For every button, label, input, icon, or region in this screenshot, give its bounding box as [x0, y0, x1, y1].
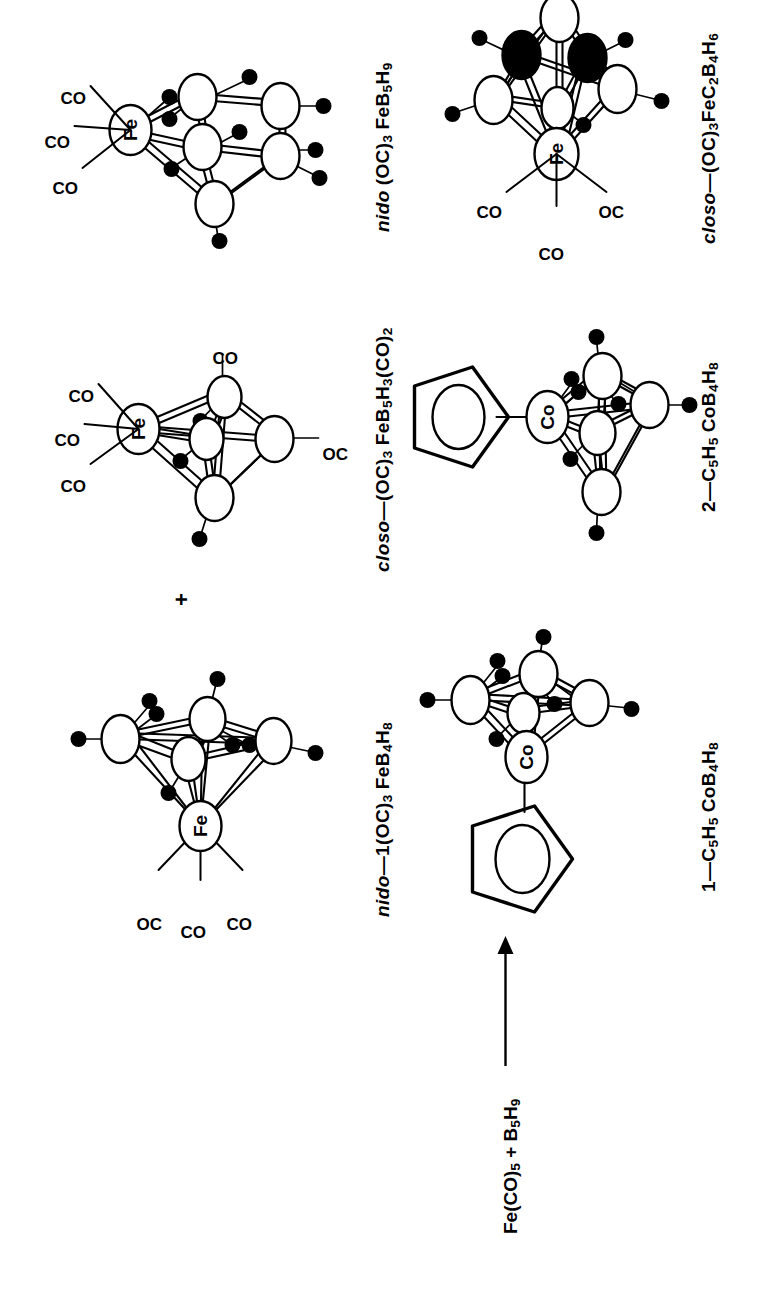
label-dash: —	[697, 482, 718, 501]
structure-label-closo-fec2b4h6: closo—(OC)3FeC2B4H6	[698, 33, 721, 244]
ligand-label-co-3: CO	[68, 388, 94, 405]
structure-panel-nido-1-feb4h8: Fe OC CO CO	[50, 622, 350, 922]
structure-label-2-c5h5cob4h8: 2—C5H5CoB4H8	[698, 362, 721, 512]
figure-canvas: Fe OC CO CO nido—1(OC)3FeB4H8 +	[0, 0, 761, 1312]
label-number: 2	[697, 501, 718, 512]
ligand-label-co-1: CO	[60, 478, 86, 495]
reaction-reactants: Fe(CO)5 + B5H9	[500, 1099, 523, 1234]
ligand-label-co-4: CO	[212, 350, 238, 367]
plus-symbol: +	[170, 593, 192, 606]
cluster-drawing-nido-1-feb4h8: Fe	[50, 622, 350, 922]
structure-panel-closo-feb5h3co2: Fe CO CO CO CO OC	[50, 250, 350, 550]
label-prefix-nido: nido	[371, 875, 392, 917]
structure-panel-closo-fec2b4h6: Fe CO CO OC	[410, 0, 700, 246]
atom-label-fe: Fe	[190, 815, 211, 837]
ligand-label-co-1: CO	[476, 204, 502, 221]
ligand-label-co-2: CO	[538, 246, 564, 263]
structure-panel-nido-feb5h9: Fe CO CO CO	[40, 0, 350, 242]
ligand-label-oc: OC	[598, 204, 624, 221]
ligand-label-oc: OC	[322, 446, 348, 463]
ligand-label-co-2: CO	[226, 916, 252, 933]
label-dash: —	[697, 862, 718, 881]
label-number: 1	[371, 845, 392, 856]
structure-panel-2-c5h5cob4h8: Co	[400, 244, 690, 544]
reaction-arrow	[492, 936, 518, 1066]
structure-label-closo-feb5h3co2: closo—(OC)3FeB5H3(CO)2	[372, 327, 395, 572]
label-number: 1	[697, 881, 718, 892]
ligand-label-co-3: CO	[60, 90, 86, 107]
label-prefix-nido: nido	[371, 190, 392, 232]
cluster-drawing-nido-feb5h9: Fe	[40, 0, 350, 242]
ligand-label-co-2: CO	[54, 432, 80, 449]
label-dash: —	[371, 856, 392, 875]
ligand-label-co-1: CO	[180, 924, 206, 941]
atom-label-co: Co	[516, 744, 537, 769]
structure-panel-1-c5h5cob4h8: Co	[412, 582, 682, 912]
structure-label-nido-1-feb4h8: nido—1(OC)3FeB4H8	[372, 722, 395, 917]
structure-label-1-c5h5cob4h8: 1—C5H5CoB4H8	[698, 742, 721, 892]
cluster-drawing-closo-feb5h3co2: Fe	[50, 250, 350, 550]
label-prefix-closo: closo	[371, 520, 392, 572]
structure-label-nido-feb5h9: nido(OC)3FeB5H9	[372, 62, 395, 232]
cluster-drawing-2-c5h5cob4h8: Co	[400, 244, 690, 544]
figure-page: Fe OC CO CO nido—1(OC)3FeB4H8 +	[0, 0, 761, 1312]
cluster-drawing-closo-fec2b4h6: Fe	[410, 0, 700, 246]
label-dash: —	[371, 501, 392, 520]
ligand-label-co-1: CO	[52, 180, 78, 197]
atom-label-co: Co	[537, 404, 558, 429]
label-prefix-closo: closo	[697, 192, 718, 244]
label-dash: —	[697, 173, 718, 192]
ligand-label-co-2: CO	[44, 134, 70, 151]
cluster-drawing-1-c5h5cob4h8: Co	[412, 582, 682, 912]
ligand-label-oc: OC	[136, 916, 162, 933]
